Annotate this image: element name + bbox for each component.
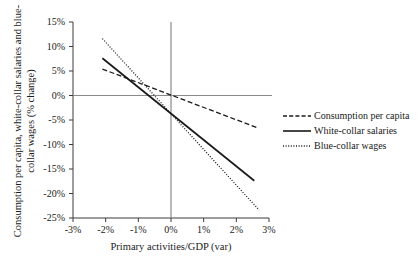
x-tick-label: -1% <box>121 224 155 235</box>
y-tick-label: 5% <box>31 65 65 76</box>
y-tick-label: -20% <box>31 188 65 199</box>
legend-label: White-collar salaries <box>312 125 397 136</box>
chart-legend: Consumption per capita White-collar sala… <box>282 108 416 153</box>
x-tick-label: 3% <box>252 224 286 235</box>
y-tick-label: -5% <box>31 114 65 125</box>
x-tick-label: 1% <box>187 224 221 235</box>
legend-item-consumption-per-capita: Consumption per capita <box>282 108 416 123</box>
y-tick-label: 0% <box>31 90 65 101</box>
y-tick-label: -10% <box>31 139 65 150</box>
x-tick-label: -2% <box>89 224 123 235</box>
chart-figure: Consumption per capita, white-collar sal… <box>0 0 418 263</box>
series-line-blue-collar-wages <box>102 39 259 211</box>
x-axis-title: Primary activities/GDP (var) <box>73 241 269 252</box>
x-tick-label: 0% <box>154 224 188 235</box>
legend-swatch-solid-icon <box>282 126 312 136</box>
legend-swatch-dotted-icon <box>282 141 312 151</box>
y-tick-label: -15% <box>31 163 65 174</box>
y-tick-label: 10% <box>31 41 65 52</box>
x-tick-label: 2% <box>219 224 253 235</box>
series-line-white-collar-salaries <box>102 58 254 181</box>
legend-label: Blue-collar wages <box>312 140 386 151</box>
legend-swatch-dashed-icon <box>282 111 312 121</box>
legend-label: Consumption per capita <box>312 110 410 121</box>
legend-item-white-collar-salaries: White-collar salaries <box>282 123 416 138</box>
y-tick-label: 15% <box>31 16 65 27</box>
y-tick-label: -25% <box>31 212 65 223</box>
legend-item-blue-collar-wages: Blue-collar wages <box>282 138 416 153</box>
x-tick-label: -3% <box>56 224 90 235</box>
